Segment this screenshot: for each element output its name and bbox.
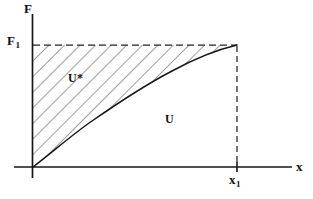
region-label-u-star: U*	[68, 72, 83, 84]
hatched-region-u-star	[28, 40, 243, 175]
x-tick-subscript: 1	[236, 179, 241, 189]
region-label-u: U	[165, 113, 174, 125]
figure-container: F F1 x x1 U* U	[0, 0, 313, 199]
x-axis-title: x	[296, 160, 303, 173]
x-tick-base: x	[229, 172, 236, 187]
y-axis-tick-label-f1: F1	[7, 34, 20, 51]
economics-utility-figure	[0, 0, 313, 199]
y-axis-title: F	[24, 2, 32, 15]
y-tick-subscript: 1	[15, 40, 20, 50]
x-axis-tick-label-x1: x1	[229, 173, 241, 190]
y-tick-base: F	[7, 33, 15, 48]
